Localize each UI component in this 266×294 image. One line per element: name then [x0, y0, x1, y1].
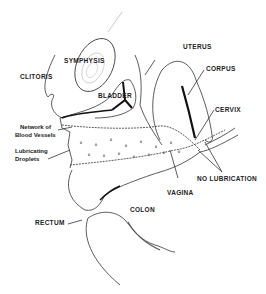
label-cervix: CERVIX	[215, 106, 241, 113]
label-bladder: BLADDER	[98, 92, 132, 99]
vagina-upper-wall	[62, 125, 200, 150]
clitoris-shape	[45, 55, 62, 118]
symphysis-shape	[67, 32, 123, 98]
anatomy-diagram: SYMPHYSIS UTERUS CORPUS CLITORIS BLADDER…	[0, 0, 266, 294]
label-network-line1: Network of	[20, 124, 51, 131]
label-corpus: CORPUS	[206, 65, 236, 72]
label-rectum: RECTUM	[35, 219, 65, 226]
diagram-drawing	[0, 0, 266, 294]
uterus-shape	[153, 61, 213, 142]
rectum-shape	[86, 212, 175, 285]
colon-shape	[68, 152, 200, 210]
label-no-lubrication: NO LUBRICATION	[197, 175, 257, 182]
vagina-lower-wall	[70, 130, 225, 165]
label-vagina: VAGINA	[167, 189, 194, 196]
label-symphysis: SYMPHYSIS	[64, 57, 105, 64]
label-clitoris: CLITORIS	[20, 73, 53, 80]
label-colon: COLON	[130, 206, 155, 213]
label-lubricating-line1: Lubricating	[15, 148, 48, 155]
label-lubricating-line2: Droplets	[15, 156, 39, 163]
label-uterus: UTERUS	[183, 43, 212, 50]
label-network-line2: Blood Vessels	[15, 132, 56, 139]
